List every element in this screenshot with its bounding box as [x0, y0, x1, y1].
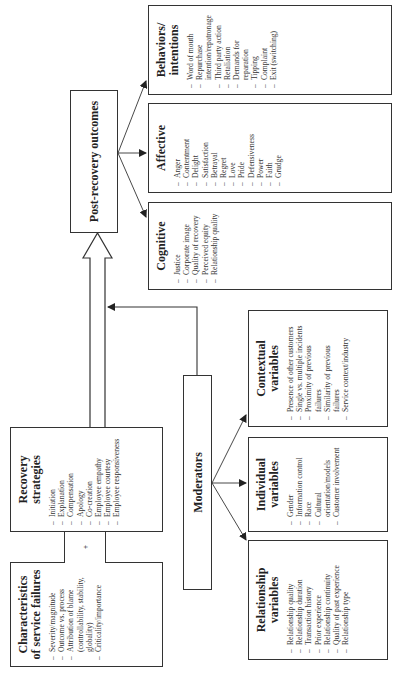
- list-item: Information control: [295, 444, 304, 517]
- list-item: Anger: [173, 110, 182, 178]
- list-item: Faith: [265, 110, 274, 178]
- title-line: intentions: [168, 6, 181, 94]
- list-item: Initiation: [48, 434, 57, 517]
- arrow-to-relationship: [212, 483, 246, 540]
- list-item: Quality of past experience: [332, 547, 341, 645]
- moderators-link-line: [108, 307, 197, 375]
- title-line: variables: [268, 438, 281, 531]
- contextual-title: Contextual variables: [255, 311, 281, 426]
- cognitive-list: JusticeCorporate imageQuality of recover…: [173, 203, 219, 289]
- list-item: Similarity of previous: [323, 317, 332, 412]
- recovery-title: Recovery strategies: [17, 428, 43, 531]
- arrow-to-contextual: [212, 415, 246, 483]
- behaviors-list: Word of mouthRepurchaseintention/repatro…: [186, 6, 278, 94]
- list-item: Relationship type: [341, 547, 350, 645]
- plus-symbol: +: [81, 531, 90, 563]
- list-item: Relationship duration: [295, 547, 304, 645]
- list-item: Co-creation: [85, 434, 94, 517]
- recovery-list: InitiationExplanationCompensationApology…: [48, 428, 122, 531]
- relationship-variables-box: Relationship variables Relationship qual…: [248, 540, 388, 660]
- recovery-strategies-box: Recovery strategies InitiationExplanatio…: [10, 427, 163, 532]
- list-item: Service context/industry: [341, 317, 350, 412]
- list-item: Gender: [286, 444, 295, 517]
- title-line: variables: [268, 541, 281, 659]
- title-line: strategies: [30, 428, 43, 531]
- list-item: reparation: [241, 12, 250, 80]
- title-line: variables: [268, 311, 281, 426]
- list-item: Relationship continuity: [323, 547, 332, 645]
- contextual-variables-box: Contextual variables Presence of other c…: [248, 310, 388, 427]
- list-item: (controllability, stability,: [76, 569, 85, 652]
- list-item: Relationship quality: [286, 547, 295, 645]
- list-item: Contentment: [182, 110, 191, 178]
- post-recovery-outcomes-box: Post-recovery outcomes: [70, 90, 118, 233]
- title-line: of service failures: [30, 563, 43, 666]
- list-item: Repurchase: [195, 12, 204, 80]
- moderators-box: Moderators: [183, 375, 212, 590]
- list-item: Outcome vs. process: [57, 569, 66, 652]
- list-item: Single vs. multiple incidents: [295, 317, 304, 412]
- behaviors-title: Behaviors/ intentions: [155, 6, 181, 94]
- affective-title: Affective: [155, 104, 168, 192]
- list-item: Demands for: [232, 12, 241, 80]
- list-item: Justice: [173, 209, 182, 275]
- plus-connector: +: [64, 531, 106, 563]
- list-item: Complaint: [260, 12, 269, 80]
- individual-list: GenderInformation controlRaceCulturalori…: [286, 438, 341, 531]
- list-item: Quality of recovery: [191, 209, 200, 275]
- moderators-title: Moderators: [190, 376, 205, 589]
- list-item: failures: [314, 317, 323, 412]
- list-item: Apology: [76, 434, 85, 517]
- affective-box: Affective AngerContentmentDelightSatisfa…: [148, 103, 392, 193]
- list-item: Third party action: [214, 12, 223, 80]
- list-item: Employee responsiveness: [112, 434, 121, 517]
- list-item: Satisfaction: [201, 110, 210, 178]
- behaviors-intentions-box: Behaviors/ intentions Word of mouthRepur…: [148, 5, 392, 95]
- list-item: globality): [85, 569, 94, 652]
- relationship-title: Relationship variables: [255, 541, 281, 659]
- list-item: Pride: [237, 110, 246, 178]
- main-hollow-arrow: [83, 233, 112, 427]
- affective-list: AngerContentmentDelightSatisfactionBetra…: [173, 104, 283, 192]
- arrow-to-behaviors: [118, 81, 146, 153]
- arrow-to-cognitive: [118, 153, 146, 217]
- list-item: Love: [228, 110, 237, 178]
- list-item: Employee courtesy: [103, 434, 112, 517]
- list-item: Prior experience: [314, 547, 323, 645]
- outcomes-title: Post-recovery outcomes: [87, 91, 102, 232]
- list-item: Compensation: [66, 434, 75, 517]
- list-item: Cultural: [314, 444, 323, 517]
- list-item: orientation/models: [323, 444, 332, 517]
- contextual-list: Presence of other customersSingle vs. mu…: [286, 311, 350, 426]
- characteristics-box: Characteristics of service failures Seve…: [10, 562, 163, 667]
- cognitive-title: Cognitive: [155, 203, 168, 289]
- list-item: Retaliation: [223, 12, 232, 80]
- list-item: Race: [304, 444, 313, 517]
- list-item: intention/repatronage: [204, 12, 213, 80]
- list-item: Transaction history: [304, 547, 313, 645]
- individual-title: Individual variables: [255, 438, 281, 531]
- list-item: Proximity of previous: [304, 317, 313, 412]
- list-item: Criticality/importance: [94, 569, 103, 652]
- list-item: Word of mouth: [186, 12, 195, 80]
- characteristics-list: Severity/magnitudeOutcome vs. processAtt…: [48, 563, 103, 666]
- list-item: Attribution of blame: [66, 569, 75, 652]
- relationship-list: Relationship qualityRelationship duratio…: [286, 541, 350, 659]
- list-item: Tipping: [250, 12, 259, 80]
- list-item: Explanation: [57, 434, 66, 517]
- list-item: Regret: [219, 110, 228, 178]
- list-item: Corporate image: [182, 209, 191, 275]
- list-item: failures: [332, 317, 341, 412]
- list-item: Defensiveness: [247, 110, 256, 178]
- service-recovery-diagram: Characteristics of service failures Seve…: [0, 0, 400, 687]
- characteristics-title: Characteristics of service failures: [17, 563, 43, 666]
- list-item: Delight: [191, 110, 200, 178]
- cognitive-box: Cognitive JusticeCorporate imageQuality …: [148, 202, 392, 290]
- list-item: Presence of other customers: [286, 317, 295, 412]
- list-item: Power: [256, 110, 265, 178]
- list-item: Severity/magnitude: [48, 569, 57, 652]
- list-item: Relationship quality: [210, 209, 219, 275]
- list-item: Perceived equity: [201, 209, 210, 275]
- list-item: Exit (switching): [269, 12, 278, 80]
- individual-variables-box: Individual variables GenderInformation c…: [248, 437, 388, 532]
